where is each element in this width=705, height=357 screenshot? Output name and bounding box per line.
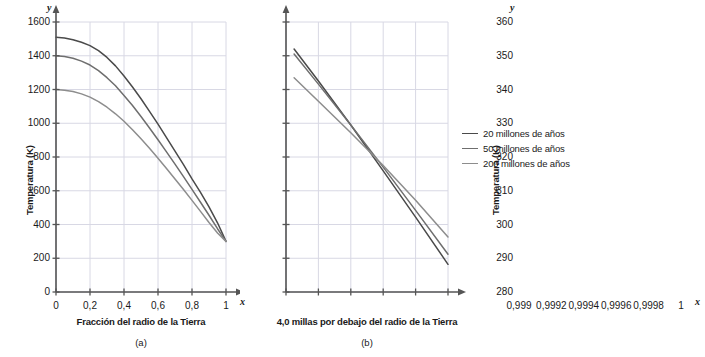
y-tick-label: 1200 (0, 85, 50, 95)
y-tick-label: 200 (0, 253, 50, 263)
series-line-2 (56, 56, 226, 242)
legend-label: 200 millones de años (483, 158, 570, 169)
legend-line-swatch (462, 163, 478, 164)
y-tick-label: 600 (0, 186, 50, 196)
y-axis-letter: y (47, 2, 51, 13)
legend-item: 200 millones de años (462, 156, 592, 171)
legend-line-swatch (462, 133, 478, 134)
chart-panel-b: Temperatura (K) 280290300310320330340350… (233, 0, 468, 357)
series-line-3 (56, 90, 226, 242)
gridlines (286, 22, 448, 292)
y-tick-label: 800 (0, 152, 50, 162)
data-curves (56, 37, 226, 241)
legend-line-swatch (462, 148, 478, 149)
legend: 20 millones de años50 millones de años20… (462, 126, 592, 171)
axes (283, 5, 466, 295)
legend-label: 20 millones de años (483, 128, 565, 139)
chart-panel-a: Temperatura (K) 020040060080010001200140… (0, 0, 240, 357)
y-tick-label: 340 (459, 85, 513, 95)
axes (53, 5, 240, 295)
legend-item: 50 millones de años (462, 141, 592, 156)
panel-letter-a: (a) (21, 337, 261, 348)
y-tick-label: 1000 (0, 118, 50, 128)
tick-marks (283, 22, 449, 296)
y-tick-label: 350 (459, 51, 513, 61)
y-tick-label: 300 (459, 220, 513, 230)
y-tick-label: 290 (459, 253, 513, 263)
x-axis-letter: x (695, 296, 700, 307)
y-tick-label: 400 (0, 220, 50, 230)
panel-letter-b: (b) (247, 337, 487, 348)
y-tick-label: 1400 (0, 51, 50, 61)
x-axis-caption-a: Fracción del radio de la Tierra (21, 316, 261, 327)
y-axis-letter: y (510, 2, 514, 13)
y-tick-label: 280 (459, 287, 513, 297)
plot-area-b (233, 0, 468, 310)
gridlines (56, 22, 226, 292)
y-tick-label: 310 (459, 186, 513, 196)
legend-item: 20 millones de años (462, 126, 592, 141)
y-tick-label: 0 (0, 287, 50, 297)
y-tick-label: 1600 (0, 17, 50, 27)
x-axis-caption-b: 4,0 millas por debajo del radio de la Ti… (247, 316, 487, 327)
legend-label: 50 millones de años (483, 143, 565, 154)
y-tick-label: 360 (459, 17, 513, 27)
tick-marks (53, 22, 227, 296)
